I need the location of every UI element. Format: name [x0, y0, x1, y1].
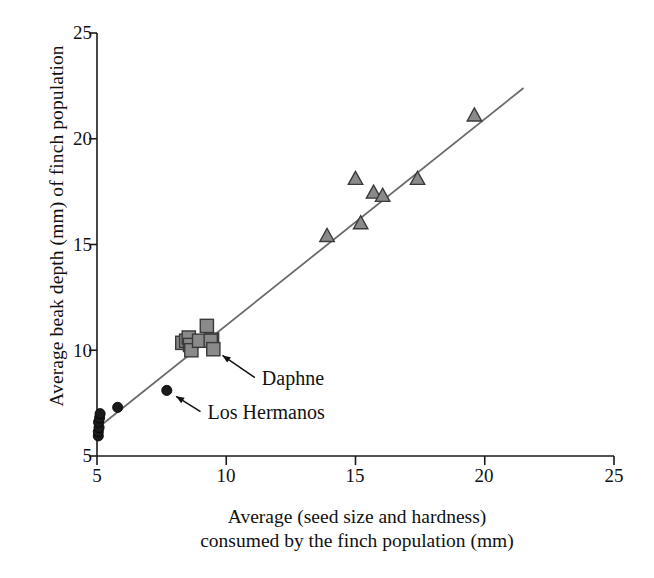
data-point-triangle-6 — [467, 108, 481, 121]
axis-ticks — [89, 33, 614, 465]
series-1-square — [176, 319, 220, 357]
series-0-circle — [93, 385, 172, 441]
annotation-arrowhead-daphne — [222, 355, 230, 362]
axis-lines — [97, 33, 614, 456]
data-point-triangle-1 — [348, 171, 362, 184]
data-point-triangle-0 — [320, 228, 334, 241]
data-point-circle-7 — [162, 385, 172, 395]
data-point-square-9 — [207, 343, 220, 356]
scatter-chart: Average beak depth (mm) of finch populat… — [0, 0, 654, 578]
regression-line — [97, 88, 524, 429]
series-2-triangle — [320, 108, 482, 242]
data-markers — [93, 108, 481, 441]
plot-area — [0, 0, 654, 578]
data-point-circle-5 — [95, 409, 105, 419]
annotation-arrowhead-los-hermanos — [176, 396, 185, 403]
data-point-circle-6 — [113, 402, 123, 412]
data-point-square-6 — [200, 319, 213, 332]
data-point-triangle-5 — [410, 171, 424, 184]
trendline — [97, 88, 524, 429]
annotation-arrows — [176, 355, 255, 411]
